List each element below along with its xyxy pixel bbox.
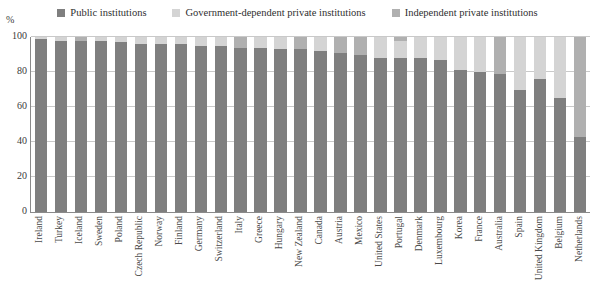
bar-segment[interactable] (234, 37, 246, 48)
bar-segment[interactable] (414, 58, 426, 212)
bar-column[interactable] (111, 37, 131, 212)
stacked-bar[interactable] (474, 37, 486, 212)
bar-segment[interactable] (195, 37, 207, 46)
bar-segment[interactable] (454, 70, 466, 212)
bar-segment[interactable] (254, 37, 266, 48)
bar-column[interactable] (131, 37, 151, 212)
bar-column[interactable] (450, 37, 470, 212)
bar-column[interactable] (351, 37, 371, 212)
bar-column[interactable] (171, 37, 191, 212)
bar-segment[interactable] (374, 58, 386, 212)
bar-column[interactable] (510, 37, 530, 212)
stacked-bar[interactable] (215, 37, 227, 212)
bar-column[interactable] (570, 37, 590, 212)
bar-segment[interactable] (354, 55, 366, 213)
bar-segment[interactable] (115, 42, 127, 212)
bar-column[interactable] (31, 37, 51, 212)
bar-segment[interactable] (155, 44, 167, 212)
bar-segment[interactable] (534, 79, 546, 212)
stacked-bar[interactable] (534, 37, 546, 212)
bar-segment[interactable] (95, 41, 107, 213)
bar-segment[interactable] (215, 37, 227, 46)
bar-column[interactable] (311, 37, 331, 212)
stacked-bar[interactable] (554, 37, 566, 212)
bar-segment[interactable] (155, 37, 167, 44)
stacked-bar[interactable] (574, 37, 586, 212)
stacked-bar[interactable] (35, 37, 47, 212)
bar-column[interactable] (251, 37, 271, 212)
stacked-bar[interactable] (195, 37, 207, 212)
bar-segment[interactable] (195, 46, 207, 212)
stacked-bar[interactable] (234, 37, 246, 212)
bar-segment[interactable] (175, 37, 187, 44)
bar-segment[interactable] (274, 49, 286, 212)
stacked-bar[interactable] (354, 37, 366, 212)
bar-column[interactable] (331, 37, 351, 212)
bar-segment[interactable] (374, 37, 386, 58)
bar-segment[interactable] (334, 53, 346, 212)
bar-segment[interactable] (135, 37, 147, 44)
bar-column[interactable] (231, 37, 251, 212)
bar-segment[interactable] (454, 37, 466, 70)
bar-column[interactable] (530, 37, 550, 212)
bar-segment[interactable] (35, 39, 47, 212)
stacked-bar[interactable] (95, 37, 107, 212)
bar-column[interactable] (91, 37, 111, 212)
bar-column[interactable] (191, 37, 211, 212)
bar-column[interactable] (550, 37, 570, 212)
bar-column[interactable] (490, 37, 510, 212)
bar-segment[interactable] (554, 98, 566, 212)
bar-segment[interactable] (534, 37, 546, 79)
bar-segment[interactable] (234, 48, 246, 213)
bar-segment[interactable] (274, 37, 286, 49)
bar-segment[interactable] (394, 58, 406, 212)
bar-segment[interactable] (554, 37, 566, 98)
bar-segment[interactable] (314, 51, 326, 212)
bar-segment[interactable] (254, 48, 266, 213)
bar-column[interactable] (211, 37, 231, 212)
stacked-bar[interactable] (394, 37, 406, 212)
bar-segment[interactable] (474, 72, 486, 212)
stacked-bar[interactable] (75, 37, 87, 212)
bar-column[interactable] (291, 37, 311, 212)
bar-column[interactable] (430, 37, 450, 212)
stacked-bar[interactable] (514, 37, 526, 212)
bar-segment[interactable] (135, 44, 147, 212)
stacked-bar[interactable] (155, 37, 167, 212)
stacked-bar[interactable] (414, 37, 426, 212)
bar-segment[interactable] (75, 41, 87, 213)
bar-column[interactable] (370, 37, 390, 212)
bar-segment[interactable] (494, 74, 506, 212)
bar-segment[interactable] (334, 37, 346, 53)
stacked-bar[interactable] (55, 37, 67, 212)
stacked-bar[interactable] (254, 37, 266, 212)
bar-segment[interactable] (494, 37, 506, 74)
bar-segment[interactable] (434, 37, 446, 60)
stacked-bar[interactable] (135, 37, 147, 212)
bar-segment[interactable] (55, 41, 67, 213)
bar-segment[interactable] (574, 37, 586, 137)
bar-segment[interactable] (215, 46, 227, 212)
bar-column[interactable] (271, 37, 291, 212)
stacked-bar[interactable] (334, 37, 346, 212)
bar-column[interactable] (410, 37, 430, 212)
bar-segment[interactable] (514, 90, 526, 213)
bar-segment[interactable] (175, 44, 187, 212)
bar-segment[interactable] (294, 37, 306, 49)
bar-column[interactable] (470, 37, 490, 212)
stacked-bar[interactable] (374, 37, 386, 212)
bar-segment[interactable] (354, 37, 366, 55)
stacked-bar[interactable] (454, 37, 466, 212)
bar-segment[interactable] (474, 37, 486, 72)
stacked-bar[interactable] (175, 37, 187, 212)
bar-column[interactable] (390, 37, 410, 212)
bar-column[interactable] (151, 37, 171, 212)
bar-segment[interactable] (394, 41, 406, 59)
bar-segment[interactable] (314, 37, 326, 51)
bar-column[interactable] (51, 37, 71, 212)
stacked-bar[interactable] (115, 37, 127, 212)
stacked-bar[interactable] (494, 37, 506, 212)
bar-column[interactable] (71, 37, 91, 212)
stacked-bar[interactable] (274, 37, 286, 212)
bar-segment[interactable] (294, 49, 306, 212)
